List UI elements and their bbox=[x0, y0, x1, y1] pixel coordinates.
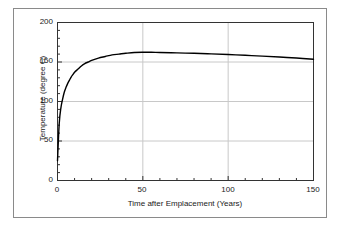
x-tick-label-0: 0 bbox=[42, 185, 72, 194]
y-axis-title: Temperature (degree C) bbox=[38, 19, 47, 179]
x-axis-title: Time after Emplacement (Years) bbox=[57, 199, 313, 208]
series-line-0 bbox=[58, 52, 314, 161]
x-tick-label-150: 150 bbox=[298, 185, 328, 194]
x-tick-label-100: 100 bbox=[213, 185, 243, 194]
data-series bbox=[58, 52, 314, 161]
x-tick-label-50: 50 bbox=[127, 185, 157, 194]
plot-canvas bbox=[0, 0, 340, 229]
temperature-vs-time-chart: 200 150 100 50 0 0 50 100 150 Time after… bbox=[0, 0, 340, 229]
gridlines bbox=[58, 23, 314, 181]
